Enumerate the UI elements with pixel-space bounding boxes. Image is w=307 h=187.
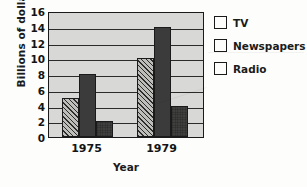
bar-chart: Billions of dollars 0246810121416 197519… — [0, 0, 307, 187]
y-tick-label: 12 — [24, 38, 45, 50]
legend-label: Newspapers — [233, 37, 306, 55]
x-axis-tick-labels: 19751979 — [48, 141, 204, 156]
y-tick-label: 2 — [24, 116, 45, 128]
x-axis-title: Year — [48, 160, 204, 175]
legend-swatch-radio-icon — [214, 62, 227, 75]
y-tick-label: 6 — [24, 85, 45, 97]
y-tick-label: 14 — [24, 22, 45, 34]
x-tick-label: 1979 — [135, 141, 189, 156]
bar-radio-1975 — [96, 121, 113, 137]
y-axis-tick-labels: 0246810121416 — [24, 12, 45, 138]
legend-label: TV — [233, 14, 248, 32]
y-tick-label: 8 — [24, 69, 45, 81]
chart-legend: TVNewspapersRadio — [214, 14, 306, 83]
bar-radio-1979 — [171, 106, 188, 137]
legend-label: Radio — [233, 60, 267, 78]
bars-layer — [49, 13, 203, 137]
legend-item-newspapers: Newspapers — [214, 37, 306, 55]
y-tick-label: 4 — [24, 101, 45, 113]
plot-area — [48, 12, 204, 138]
legend-swatch-newspapers-icon — [214, 39, 227, 52]
bar-newspapers-1975 — [79, 74, 96, 137]
bar-tv-1975 — [62, 98, 79, 137]
bar-newspapers-1979 — [154, 27, 171, 137]
y-tick-label: 10 — [24, 53, 45, 65]
y-tick-label: 0 — [24, 132, 45, 144]
legend-item-tv: TV — [214, 14, 306, 32]
legend-item-radio: Radio — [214, 60, 306, 78]
x-tick-label: 1975 — [60, 141, 114, 156]
y-tick-label: 16 — [24, 6, 45, 18]
legend-swatch-tv-icon — [214, 16, 227, 29]
bar-tv-1979 — [137, 58, 154, 137]
